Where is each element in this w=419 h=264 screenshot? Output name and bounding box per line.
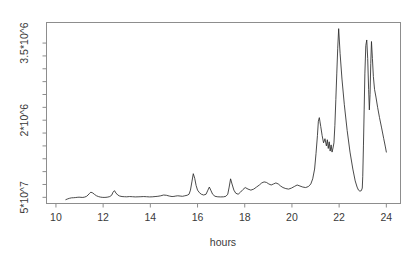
x-tick-label: 18 (239, 211, 251, 223)
x-tick-label: 22 (333, 211, 345, 223)
chart-background (0, 0, 419, 264)
x-tick-label: 12 (97, 211, 109, 223)
x-tick-label: 16 (192, 211, 204, 223)
y-tick-label: 3.5*10^6 (18, 22, 30, 63)
y-axis-tick-labels: 5*10^72*10^63.5*10^6 (18, 22, 30, 213)
x-tick-label: 10 (50, 211, 62, 223)
x-tick-label: 24 (380, 211, 392, 223)
x-tick-label: 14 (144, 211, 156, 223)
y-tick-label: 2*10^6 (18, 104, 30, 137)
y-tick-label: 5*10^7 (18, 181, 30, 214)
line-chart: 5*10^72*10^63.5*10^6 1012141618202224 ho… (0, 0, 419, 264)
chart-figure: 5*10^72*10^63.5*10^6 1012141618202224 ho… (0, 0, 419, 264)
x-axis-title: hours (210, 236, 236, 248)
x-tick-label: 20 (286, 211, 298, 223)
